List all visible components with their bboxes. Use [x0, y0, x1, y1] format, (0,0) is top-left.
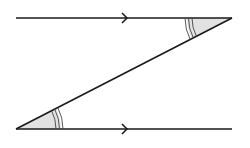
transversal-line	[16, 18, 232, 129]
alternate-angles-diagram	[0, 0, 250, 148]
